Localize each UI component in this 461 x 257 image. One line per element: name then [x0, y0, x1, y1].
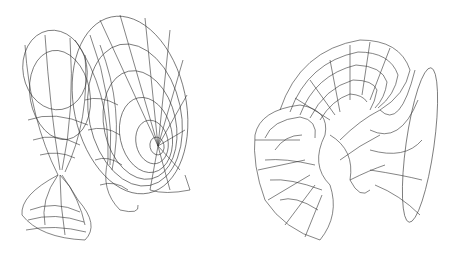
- left-surface-figure: [0, 0, 230, 257]
- front-trumpet: [17, 25, 98, 240]
- back-trumpet: [57, 5, 204, 204]
- curled-end: [254, 40, 410, 240]
- trumpet-end: [330, 66, 445, 224]
- left-wireframe-surface: [0, 0, 230, 257]
- right-wireframe-surface: [230, 0, 461, 257]
- right-surface-figure: [230, 0, 461, 257]
